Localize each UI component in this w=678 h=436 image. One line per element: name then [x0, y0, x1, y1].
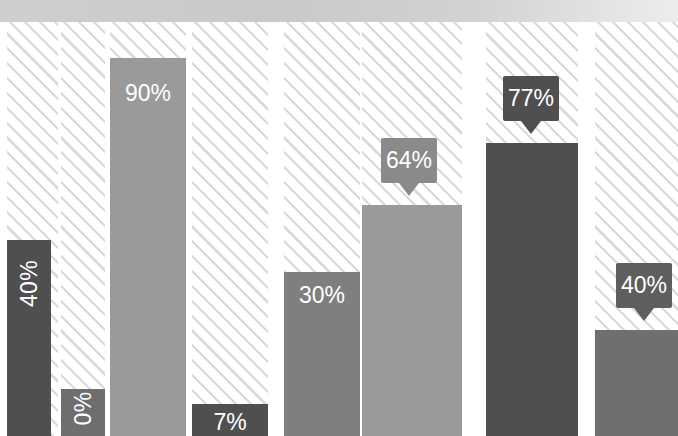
bar-7[interactable] — [486, 143, 578, 436]
bar-3[interactable]: 90% — [110, 58, 186, 436]
callout-value-label-7: 77% — [508, 85, 554, 112]
hatch-column-2 — [61, 22, 105, 436]
hatch-column-4 — [192, 22, 268, 436]
bar-1[interactable]: 40% — [7, 240, 51, 436]
callout-bubble-8[interactable]: 40% — [616, 263, 672, 308]
callout-value-label-6: 64% — [386, 147, 432, 174]
callout-tail-6 — [399, 183, 419, 196]
bar-4[interactable]: 7% — [192, 404, 268, 436]
callout-bubble-7[interactable]: 77% — [503, 76, 559, 121]
top-gradient-band — [0, 0, 678, 22]
bar-value-label-4: 7% — [192, 409, 268, 436]
bar-6[interactable] — [362, 205, 462, 436]
bar-chart: 40%0%90%7%30% 64%77%40% — [0, 0, 678, 436]
bar-value-label-2: 0% — [70, 392, 97, 426]
bar-value-label-5: 30% — [284, 282, 360, 309]
bar-value-label-3: 90% — [110, 80, 186, 107]
bar-5[interactable]: 30% — [284, 272, 360, 436]
callout-bubble-6[interactable]: 64% — [381, 138, 437, 183]
callout-tail-8 — [634, 308, 654, 321]
bar-2[interactable]: 0% — [61, 389, 105, 436]
bar-8[interactable] — [595, 330, 678, 436]
bar-value-label-1: 40% — [16, 260, 43, 307]
callout-value-label-8: 40% — [621, 272, 667, 299]
callout-tail-7 — [521, 121, 541, 134]
plot-area: 40%0%90%7%30% 64%77%40% — [0, 22, 678, 436]
